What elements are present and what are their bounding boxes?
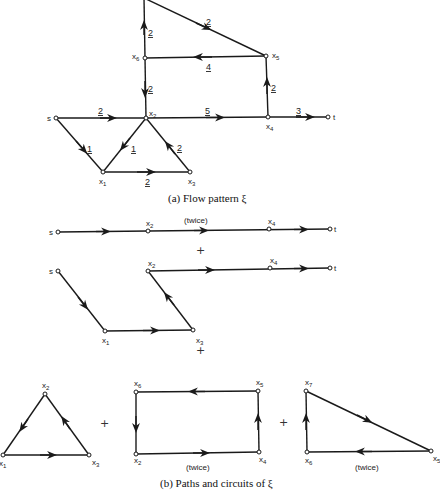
- arrow-x2-x1: [22, 419, 28, 428]
- flow-x6-x7: 2: [148, 28, 153, 38]
- arrow-x3-x2: [167, 296, 174, 305]
- flow-pattern-graph: s t x2 x4 x1 x3 x5 x6 2 5 3 1 1 2 2 2 4 …: [47, 0, 336, 205]
- path-2: s t x2 x4 x1 x3: [49, 256, 337, 346]
- label-x1: x1: [102, 336, 110, 346]
- label-x3: x3: [92, 458, 100, 468]
- node-x4: [268, 266, 272, 270]
- label-x1: x1: [99, 177, 107, 187]
- flow-x3-x2: 2: [177, 143, 182, 153]
- twice-note: (twice): [184, 216, 208, 225]
- flow-x4-x5: 2: [271, 83, 276, 93]
- label-x6: x6: [305, 456, 313, 466]
- label-x7: x7: [305, 378, 313, 388]
- node-s: [54, 116, 58, 120]
- arrow-s-x1: [78, 297, 85, 306]
- label-t: t: [333, 113, 336, 122]
- label-x5: x5: [272, 51, 280, 61]
- plus-sign: +: [279, 416, 288, 429]
- label-x2: x2: [149, 109, 157, 119]
- node-x3: [87, 453, 91, 457]
- node-x3: [191, 328, 195, 332]
- node-t: [326, 115, 330, 119]
- node-x5: [256, 389, 260, 393]
- node-s: [56, 230, 60, 234]
- arrow-s-x1: [76, 141, 84, 150]
- twice-note: (twice): [355, 463, 379, 472]
- label-s: s: [49, 228, 53, 237]
- label-x3: x3: [188, 177, 196, 187]
- node-x2: [146, 269, 150, 273]
- node-x2: [43, 392, 47, 396]
- label-x6: x6: [132, 52, 140, 62]
- node-x2: [144, 116, 148, 120]
- label-x2: x2: [148, 259, 156, 269]
- label-x6: x6: [134, 379, 142, 389]
- circuit-2: x6 x5 x2 x4 (twice): [134, 378, 267, 472]
- label-x1: x1: [0, 459, 7, 469]
- node-x6: [305, 450, 309, 454]
- arrow-x3-x2: [64, 420, 70, 429]
- node-x4: [257, 450, 261, 454]
- label-x4: x4: [270, 256, 278, 266]
- node-s: [56, 269, 60, 273]
- node-x4: [267, 227, 271, 231]
- circuit-1: x2 x1 x3: [0, 381, 100, 469]
- flow-x2-x4: 5: [205, 106, 210, 116]
- label-x5: x5: [256, 378, 264, 388]
- label-x4: x4: [268, 217, 276, 227]
- node-x6: [143, 56, 147, 60]
- label-s: s: [47, 114, 51, 123]
- flow-diagram: s t x2 x4 x1 x3 x5 x6 2 5 3 1 1 2 2 2 4 …: [0, 0, 440, 491]
- flow-x5-x6: 4: [206, 62, 211, 72]
- node-x7: [304, 389, 308, 393]
- label-x4: x4: [259, 455, 267, 465]
- node-x1: [1, 453, 5, 457]
- caption-b: (b) Paths and circuits of ξ: [160, 477, 273, 490]
- plus-sign: +: [196, 244, 205, 257]
- flow-x7-x5: 2: [206, 17, 211, 27]
- label-t: t: [334, 264, 337, 273]
- arrow-x7-x5: [357, 415, 368, 421]
- label-x2: x2: [134, 456, 142, 466]
- plus-sign: +: [100, 417, 109, 430]
- flow-x1-x3: 2: [145, 177, 150, 187]
- arrow-x2-x1: [123, 138, 130, 147]
- label-s: s: [49, 267, 53, 276]
- circuit-3: x7 x6 x5 (twice): [304, 378, 440, 472]
- node-x3: [188, 170, 192, 174]
- label-x2: x2: [42, 381, 50, 391]
- node-x5: [264, 54, 268, 58]
- flow-x4-t: 3: [296, 106, 301, 116]
- label-x4: x4: [266, 122, 274, 132]
- node-x2: [146, 229, 150, 233]
- edge-x7-x5: [144, 0, 266, 56]
- flow-x6-x2: 2: [148, 84, 153, 94]
- node-x5: [429, 449, 433, 453]
- caption-a: (a) Flow pattern ξ: [168, 192, 247, 205]
- arrow-x3-x2: [168, 145, 175, 154]
- twice-note: (twice): [186, 463, 210, 472]
- node-x6: [134, 390, 138, 394]
- plus-sign: +: [196, 344, 205, 357]
- label-t: t: [334, 225, 337, 234]
- flow-x2-x1: 1: [131, 144, 136, 154]
- label-x2: x2: [146, 219, 154, 229]
- node-t: [328, 227, 332, 231]
- node-x1: [101, 170, 105, 174]
- node-x4: [266, 115, 270, 119]
- flow-s-x2: 2: [98, 106, 103, 116]
- flow-s-x1: 1: [87, 144, 92, 154]
- node-x1: [103, 329, 107, 333]
- path-1: s t x2 x4 (twice): [49, 216, 337, 237]
- edge-x7-x5: [306, 391, 431, 451]
- label-x5: x5: [433, 454, 440, 464]
- node-t: [328, 266, 332, 270]
